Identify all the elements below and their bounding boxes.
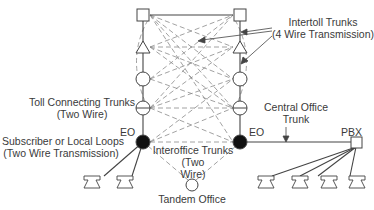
telephone-icon xyxy=(258,176,274,188)
primary-center-circle-right xyxy=(233,72,247,86)
interoffice-trunks-label: Interoffice Trunks (Two Wire) xyxy=(150,144,236,180)
end-office-filled-left xyxy=(136,135,150,149)
interoffice-line3: Wire) xyxy=(150,168,236,180)
toll-connecting-line2: (Two Wire) xyxy=(24,108,140,120)
telephone-icon xyxy=(84,176,100,188)
pbx-label: PBX xyxy=(341,126,362,138)
eo-right-label: EO xyxy=(249,126,264,138)
central-office-trunk-label: Central Office Trunk xyxy=(258,101,334,125)
regional-center-square-right xyxy=(234,9,246,21)
subscriber-line1: Subscriber or Local Loops xyxy=(2,135,120,147)
interoffice-line1: Interoffice Trunks xyxy=(150,144,236,156)
toll-connecting-trunks-label: Toll Connecting Trunks (Two Wire) xyxy=(24,96,140,120)
telephone-icon xyxy=(117,176,133,188)
telephone-icon xyxy=(321,176,337,188)
pbx-box xyxy=(351,137,362,148)
telephone-icon xyxy=(292,176,308,188)
intertoll-trunks-label: Intertoll Trunks (4 Wire Transmission) xyxy=(268,16,374,40)
primary-center-circle-left xyxy=(136,72,150,86)
tandem-office-circle xyxy=(186,179,198,191)
interoffice-line2: (Two xyxy=(150,156,236,168)
regional-center-square-left xyxy=(137,9,149,21)
tandem-office-label: Tandem Office xyxy=(155,193,229,205)
telephone-icon xyxy=(349,176,365,188)
subscriber-line2: (Two Wire Transmission) xyxy=(2,147,120,159)
intertoll-line2: (4 Wire Transmission) xyxy=(268,28,374,40)
central-office-line1: Central Office xyxy=(258,101,334,113)
subscriber-loops-label: Subscriber or Local Loops (Two Wire Tran… xyxy=(2,135,120,159)
central-office-line2: Trunk xyxy=(258,113,334,125)
intertoll-line1: Intertoll Trunks xyxy=(268,16,374,28)
toll-connecting-line1: Toll Connecting Trunks xyxy=(24,96,140,108)
